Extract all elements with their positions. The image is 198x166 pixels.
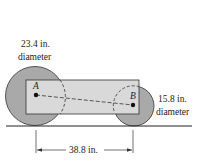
dimension-label: 38.8 in. (69, 145, 98, 155)
wheel-diagram: A B 23.4 in. diameter 15.8 in. diameter … (0, 0, 198, 166)
point-a-dot (34, 93, 38, 97)
dimension-arrow-right-icon (127, 148, 132, 151)
large-wheel-diameter-word: diameter (18, 52, 52, 62)
point-a-label: A (32, 81, 39, 91)
body-rectangle (26, 80, 139, 114)
small-wheel-diameter-value: 15.8 in. (158, 94, 187, 104)
point-b-dot (131, 103, 135, 107)
large-wheel-diameter-value: 23.4 in. (21, 39, 50, 49)
point-b-label: B (130, 91, 136, 101)
small-wheel-diameter-word: diameter (156, 107, 190, 117)
dimension-arrow-left-icon (37, 148, 42, 151)
